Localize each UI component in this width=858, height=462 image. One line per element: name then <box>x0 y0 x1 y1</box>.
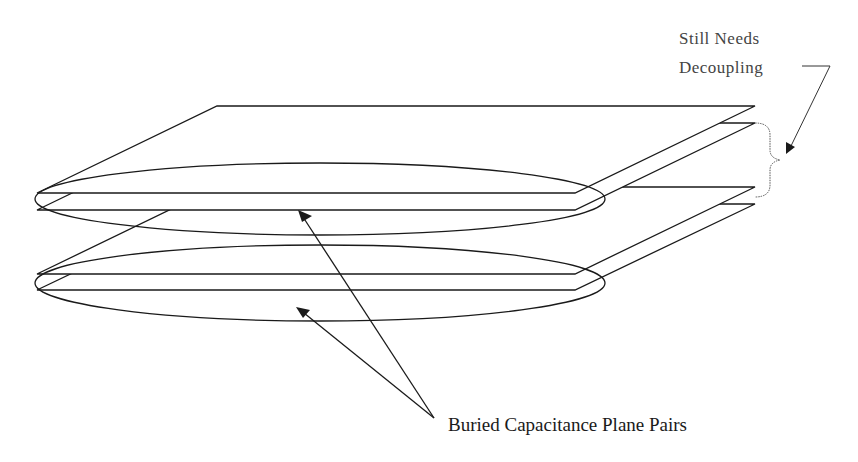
still-needs-label: Still Needs <box>679 29 760 48</box>
plane-1 <box>37 106 755 193</box>
capacitance-plane-diagram: Still Needs Decoupling Buried Capacitanc… <box>0 0 858 462</box>
decoupling-arrow <box>786 66 830 154</box>
decoupling-label: Decoupling <box>679 58 763 77</box>
gap-brace <box>755 123 780 197</box>
pair-2-arrow <box>304 313 434 418</box>
decoupling-arrowhead-icon <box>786 142 795 154</box>
buried-capacitance-plane-pairs-label: Buried Capacitance Plane Pairs <box>448 414 687 435</box>
